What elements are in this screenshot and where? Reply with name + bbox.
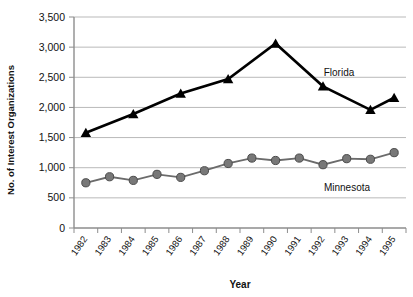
x-tick-label: 1982: [68, 234, 89, 258]
data-point-minnesota: [153, 170, 161, 178]
series-label-florida: Florida: [324, 67, 355, 78]
data-point-minnesota: [82, 179, 90, 187]
x-axis-title: Year: [229, 279, 250, 290]
series-line-florida: [86, 44, 394, 133]
data-point-minnesota: [105, 173, 113, 181]
y-tick-label: 1,500: [39, 131, 65, 143]
x-tick-label: 1995: [377, 234, 398, 258]
y-tick-label: 2,000: [39, 101, 65, 113]
series-markers-florida: [81, 39, 400, 137]
y-tick-label: 0: [59, 222, 65, 234]
y-axis-tick-labels: 05001,0001,5002,0002,5003,0003,500: [39, 11, 65, 234]
line-chart: No. of Interest Organizations 05001,0001…: [0, 0, 413, 297]
x-axis-tick-marks: [74, 228, 406, 233]
data-point-minnesota: [343, 155, 351, 163]
y-axis-title: No. of Interest Organizations: [5, 65, 16, 195]
data-point-florida: [270, 39, 280, 48]
x-tick-label: 1986: [163, 234, 184, 258]
y-tick-label: 3,000: [39, 41, 65, 53]
data-point-minnesota: [200, 167, 208, 175]
chart-container: No. of Interest Organizations 05001,0001…: [0, 0, 413, 297]
x-tick-label: 1989: [234, 234, 255, 258]
x-tick-label: 1985: [140, 234, 161, 258]
data-point-minnesota: [129, 176, 137, 184]
data-point-minnesota: [224, 159, 232, 167]
data-point-florida: [389, 93, 399, 102]
data-point-minnesota: [319, 161, 327, 169]
gridlines: [69, 17, 406, 228]
y-tick-label: 500: [47, 191, 65, 203]
data-point-minnesota: [271, 156, 279, 164]
x-tick-label: 1991: [282, 234, 303, 258]
data-point-minnesota: [295, 154, 303, 162]
data-point-minnesota: [177, 173, 185, 181]
x-tick-label: 1993: [329, 234, 350, 258]
x-tick-label: 1987: [187, 234, 208, 258]
x-tick-label: 1990: [258, 234, 279, 258]
series-label-minnesota: Minnesota: [324, 182, 371, 193]
data-point-minnesota: [366, 155, 374, 163]
x-tick-label: 1994: [353, 234, 374, 258]
x-tick-label: 1988: [211, 234, 232, 258]
y-tick-label: 1,000: [39, 161, 65, 173]
x-tick-label: 1992: [306, 234, 327, 258]
data-point-minnesota: [390, 149, 398, 157]
x-axis-tick-labels: 1982198319841985198619871988198919901991…: [68, 234, 397, 258]
data-point-minnesota: [248, 154, 256, 162]
y-tick-label: 2,500: [39, 71, 65, 83]
x-tick-label: 1983: [92, 234, 113, 258]
x-tick-label: 1984: [116, 234, 137, 258]
y-tick-label: 3,500: [39, 11, 65, 23]
